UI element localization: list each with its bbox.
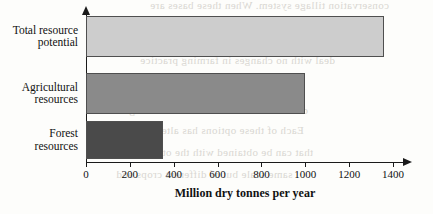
x-axis-arrowhead [403,158,412,166]
category-label-line: Forest [0,127,78,140]
x-tick-label: 200 [122,168,139,180]
x-tick-mark [393,163,394,167]
x-axis-title: Million dry tonnes per year [86,186,404,201]
x-tick-mark [130,163,131,167]
x-tick-mark [218,163,219,167]
x-tick-label: 800 [253,168,270,180]
x-tick-label: 1200 [338,168,360,180]
x-tick-label: 400 [165,168,182,180]
category-label-line: resources [0,93,78,106]
category-label-line: resources [0,140,78,153]
x-tick-mark [261,163,262,167]
bar-chart-figure: conservation tillage system. When these … [0,0,433,214]
x-axis-line [86,162,404,163]
bar-3 [86,121,163,159]
category-label-line: Total resource [0,24,78,37]
bar-2 [86,73,305,114]
category-label-2: Agriculturalresources [0,81,78,106]
category-label-line: potential [0,36,78,49]
category-label-line: Agricultural [0,81,78,94]
x-tick-mark [305,163,306,167]
x-tick-mark [349,163,350,167]
x-tick-label: 1000 [294,168,316,180]
x-tick-label: 600 [209,168,226,180]
x-tick-label: 0 [83,168,89,180]
x-tick-mark [86,163,87,167]
y-axis-arrowhead [82,6,90,15]
category-label-3: Forestresources [0,127,78,152]
plot-area: 0200400600800100012001400 Total resource… [0,0,433,214]
x-tick-label: 1400 [382,168,404,180]
bar-1 [86,16,384,57]
category-label-1: Total resourcepotential [0,24,78,49]
x-tick-mark [174,163,175,167]
